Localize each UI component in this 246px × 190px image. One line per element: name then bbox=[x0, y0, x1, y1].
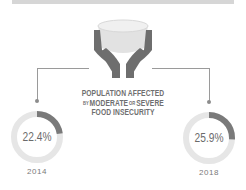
title-line-3: FOOD INSECURITY bbox=[80, 108, 167, 118]
connector-left-vertical bbox=[37, 68, 38, 101]
stat-value-2018: 25.9% bbox=[184, 131, 235, 145]
title-line-1: POPULATION AFFECTED bbox=[80, 89, 167, 99]
title-line-2: BYMODERATEORSEVERE bbox=[80, 99, 167, 109]
stat-year-2018: 2018 bbox=[189, 168, 229, 177]
connector-right-dot bbox=[207, 100, 211, 104]
connector-right-vertical bbox=[209, 68, 210, 102]
header-bar bbox=[12, 0, 234, 4]
infographic-title: POPULATION AFFECTED BYMODERATEORSEVERE F… bbox=[80, 89, 167, 118]
connector-left-horizontal bbox=[37, 68, 89, 69]
connector-left-dot bbox=[35, 99, 39, 103]
connector-right-horizontal bbox=[152, 68, 210, 69]
stat-value-2014: 22.4% bbox=[12, 130, 63, 144]
stat-year-2014: 2014 bbox=[17, 167, 57, 176]
hands-holding-bowl-icon bbox=[88, 18, 158, 78]
